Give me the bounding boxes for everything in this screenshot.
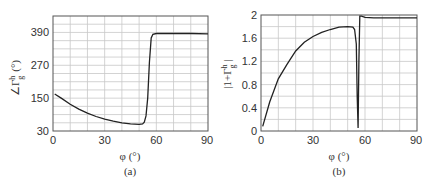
caption-a: (a) (124, 165, 137, 178)
y-tick-b: 1.6 (242, 32, 257, 44)
y-tick-a: 390 (31, 26, 49, 38)
x-tick-b: 90 (410, 134, 422, 146)
x-tick-a: 0 (50, 134, 56, 146)
svg-text:∠Γhg(°): ∠Γhg(°) (8, 60, 25, 96)
x-axis-label-b: φ (°) (329, 150, 350, 163)
svg-text:|1+Γhg|: |1+Γhg| (220, 59, 237, 88)
y-tick-b: 2 (251, 9, 257, 21)
y-label-unit-a: (°) (9, 60, 22, 72)
caption-b: (b) (333, 165, 346, 178)
y-label-sub-a: g (16, 76, 25, 80)
y-label-sub-b: g (228, 64, 237, 68)
magnitude-curve (263, 16, 417, 128)
y-label-main-b: |1+Γ (221, 68, 233, 88)
chart-panel-b: 0 0.4 0.8 1.2 1.6 2 0 30 60 90 φ (°) (b)… (220, 9, 422, 178)
y-label-end-b: | (221, 59, 233, 61)
x-tick-a: 90 (201, 134, 213, 146)
y-axis-label-b: |1+Γhg| (220, 59, 237, 88)
x-tick-a: 60 (150, 134, 162, 146)
y-tick-b: 0 (251, 125, 257, 137)
x-tick-b: 30 (307, 134, 319, 146)
y-tick-a: 150 (31, 92, 49, 104)
y-label-main-a: ∠Γ (9, 80, 21, 96)
y-tick-b: 1.2 (242, 55, 257, 67)
x-tick-b: 60 (359, 134, 371, 146)
grid-b (261, 15, 417, 131)
y-tick-b: 0.8 (242, 79, 257, 91)
x-tick-b: 0 (258, 134, 264, 146)
phase-curve (55, 34, 208, 125)
y-axis-label-a: ∠Γhg(°) (8, 60, 25, 96)
y-tick-a: 30 (37, 125, 49, 137)
x-axis-label-a: φ (°) (120, 150, 141, 163)
y-tick-b: 0.4 (242, 102, 257, 114)
chart-panel-a: 30 150 270 390 0 30 60 90 φ (°) (a) ∠Γhg… (8, 16, 213, 178)
figure: 30 150 270 390 0 30 60 90 φ (°) (a) ∠Γhg… (0, 0, 437, 182)
y-tick-a: 270 (31, 59, 49, 71)
x-tick-a: 30 (99, 134, 111, 146)
